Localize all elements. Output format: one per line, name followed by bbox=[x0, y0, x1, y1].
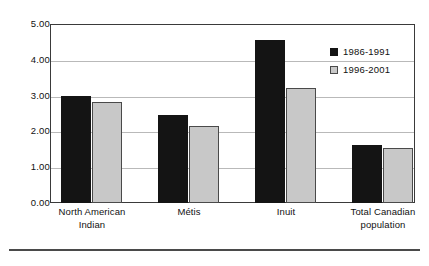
y-axis-tick-label: 5.00 bbox=[4, 19, 50, 29]
bar-series2 bbox=[286, 88, 316, 203]
legend-label: 1996-2001 bbox=[343, 65, 390, 75]
bar-series1 bbox=[61, 96, 91, 203]
legend-swatch-icon bbox=[330, 48, 338, 56]
x-axis-category-line: Total Canadian bbox=[323, 206, 429, 219]
bar-group bbox=[255, 24, 316, 203]
x-axis-category-line: Indian bbox=[32, 219, 152, 232]
bar-group bbox=[158, 24, 219, 203]
legend-label: 1986-1991 bbox=[343, 47, 390, 57]
legend-entry-series1: 1986-1991 bbox=[330, 44, 412, 59]
legend-swatch-icon bbox=[330, 66, 338, 74]
y-axis-tick-label: 3.00 bbox=[4, 91, 50, 101]
bar-series1 bbox=[255, 40, 285, 203]
legend: 1986-1991 1996-2001 bbox=[330, 44, 412, 80]
y-axis-tick-label: 1.00 bbox=[4, 162, 50, 172]
bar-chart-figure: 5.00 4.00 3.00 2.00 1.00 0.00 No bbox=[0, 0, 429, 266]
bar-series1 bbox=[158, 115, 188, 203]
bottom-divider bbox=[9, 249, 420, 251]
bar-series2 bbox=[383, 148, 413, 203]
y-axis-tick-label: 4.00 bbox=[4, 55, 50, 65]
x-axis-category-label: Total Canadian population bbox=[323, 206, 429, 231]
bar-series2 bbox=[189, 126, 219, 203]
x-axis-labels: North American Indian Métis Inuit Total … bbox=[50, 206, 415, 246]
bar-series2 bbox=[92, 102, 122, 203]
x-axis-category-line: population bbox=[323, 219, 429, 232]
bar-group bbox=[61, 24, 122, 203]
y-axis-tick-label: 2.00 bbox=[4, 126, 50, 136]
bar-series1 bbox=[352, 145, 382, 203]
legend-entry-series2: 1996-2001 bbox=[330, 62, 412, 77]
